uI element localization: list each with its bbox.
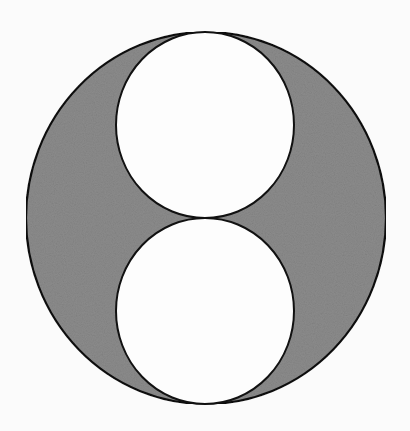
inner-circle-top — [116, 32, 294, 218]
inner-circle-bottom — [116, 218, 294, 404]
circles-diagram — [0, 0, 410, 431]
